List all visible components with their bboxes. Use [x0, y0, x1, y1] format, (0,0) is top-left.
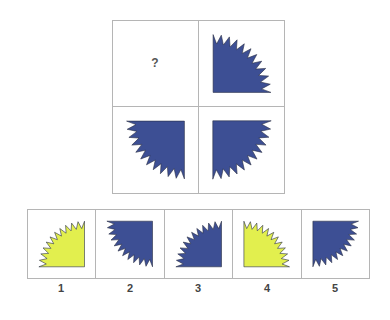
serrated-quarter-circle-polygon — [313, 221, 359, 267]
option-label-3: 3 — [164, 282, 232, 294]
answer-options — [27, 209, 370, 279]
grid-cell-bottom-right — [199, 107, 285, 193]
answer-option-1[interactable] — [28, 210, 96, 278]
serrated-quarter-circle-shape — [165, 210, 232, 278]
serrated-quarter-circle-shape — [302, 210, 369, 278]
serrated-quarter-circle-shape — [199, 21, 285, 106]
serrated-quarter-circle-shape — [199, 107, 285, 193]
grid-cell-bottom-left — [113, 107, 199, 193]
option-label-4: 4 — [233, 282, 301, 294]
grid-cell-top-left: ? — [113, 21, 199, 107]
serrated-quarter-circle-polygon — [244, 221, 290, 267]
option-label-1: 1 — [27, 282, 95, 294]
serrated-quarter-circle-shape — [113, 107, 198, 193]
answer-option-4[interactable] — [233, 210, 301, 278]
serrated-quarter-circle-polygon — [213, 35, 271, 93]
serrated-quarter-circle-shape — [233, 210, 300, 278]
grid-cell-top-right — [199, 21, 285, 107]
serrated-quarter-circle-shape — [28, 210, 95, 278]
puzzle-grid: ? — [112, 20, 285, 194]
option-label-5: 5 — [301, 282, 369, 294]
serrated-quarter-circle-polygon — [213, 121, 271, 179]
answer-option-5[interactable] — [302, 210, 369, 278]
question-mark: ? — [112, 20, 198, 106]
serrated-quarter-circle-polygon — [39, 221, 85, 267]
serrated-quarter-circle-polygon — [176, 221, 222, 267]
serrated-quarter-circle-polygon — [127, 121, 185, 179]
serrated-quarter-circle-polygon — [107, 221, 153, 267]
option-label-2: 2 — [96, 282, 164, 294]
answer-option-3[interactable] — [165, 210, 233, 278]
serrated-quarter-circle-shape — [96, 210, 163, 278]
answer-option-2[interactable] — [96, 210, 164, 278]
